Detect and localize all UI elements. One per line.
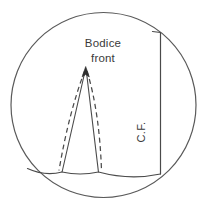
label-front: front [91,52,116,64]
dart-leg-left-solid [62,70,85,172]
center-front-line [153,32,161,175]
dart-leg-right-solid [86,70,98,172]
label-bodice: Bodice [85,37,121,49]
pattern-diagram: Bodice front C.F. [0,0,210,212]
label-center-front: C.F. [135,121,147,142]
dart-apex-point [82,67,89,78]
hem-segment-middle [62,172,99,174]
diagram-canvas: Bodice front C.F. [0,0,210,212]
hem-segment-right [99,172,161,177]
dart-guide-right-dashed [87,71,102,171]
dart-guide-left-dashed [59,71,85,171]
hem-segment-left [28,169,63,174]
